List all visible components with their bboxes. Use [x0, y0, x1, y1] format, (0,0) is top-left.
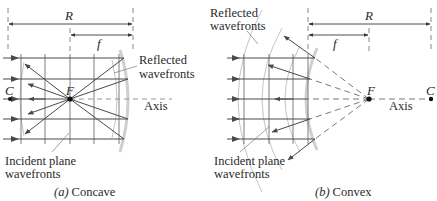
focal-point-label: F	[65, 83, 75, 98]
incident-wavefronts-label-line1: Incident plane	[5, 154, 77, 168]
panel-concave: R f	[3, 8, 195, 199]
mirror-reflection-diagram: R f	[0, 0, 437, 201]
radius-label: R	[64, 8, 73, 23]
focal-point-label-convex: F	[366, 83, 376, 98]
focal-length-label: f	[97, 36, 103, 51]
reflected-wavefronts-label-line2-convex: wavefronts	[210, 19, 266, 33]
center-of-curvature-label-convex: C	[426, 83, 435, 98]
center-of-curvature-label: C	[5, 83, 14, 98]
reflected-wavefronts-label-line1: Reflected	[139, 53, 188, 67]
caption-concave: (a)Concave	[54, 185, 116, 199]
reflected-wavefronts-label-line2: wavefronts	[139, 67, 195, 81]
incident-wavefronts-label-line2-convex: wavefronts	[214, 167, 270, 181]
reflected-rays	[25, 58, 128, 139]
axis-label: Axis	[144, 99, 168, 113]
incident-wavefronts-label-line1-convex: Incident plane	[214, 154, 286, 168]
radius-label-convex: R	[364, 8, 373, 23]
axis-label-convex: Axis	[389, 99, 413, 113]
caption-convex: (b)Convex	[315, 185, 372, 199]
incident-leader-line	[52, 133, 69, 152]
reflected-wavefronts-label-line1-convex: Reflected	[210, 6, 259, 20]
incident-rays	[3, 58, 128, 139]
panel-convex: R f	[210, 6, 435, 199]
focal-length-label-convex: f	[333, 36, 339, 51]
incident-wavefronts-label-line2: wavefronts	[5, 167, 61, 181]
